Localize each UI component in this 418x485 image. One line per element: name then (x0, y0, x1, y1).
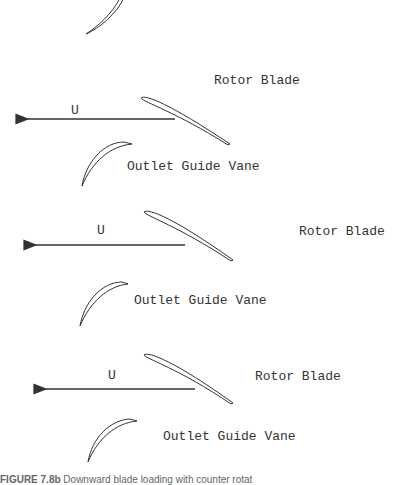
figure-number: FIGURE 7.8b (0, 474, 61, 485)
figure-caption: FIGURE 7.8b Downward blade loading with … (0, 474, 252, 485)
stage-3 (46, 354, 233, 462)
ogv-label-2: Outlet Guide Vane (134, 293, 267, 308)
rotor-blade-3 (144, 354, 233, 404)
ogv-top-partial (86, 0, 124, 34)
stage-2 (36, 211, 233, 326)
ogv-label-1: Outlet Guide Vane (127, 159, 260, 174)
velocity-label-2: U (97, 223, 105, 238)
velocity-label-1: U (71, 103, 79, 118)
ogv-label-3: Outlet Guide Vane (163, 429, 296, 444)
ogv-2 (80, 282, 128, 326)
ogv-3 (88, 419, 137, 462)
rotor-blade-label-1: Rotor Blade (214, 73, 300, 88)
rotor-blade-label-2: Rotor Blade (299, 224, 385, 239)
rotor-blade-label-3: Rotor Blade (255, 369, 341, 384)
caption-text: Downward blade loading with counter rota… (63, 474, 252, 485)
ogv-1 (82, 142, 132, 186)
velocity-label-3: U (108, 368, 116, 383)
rotor-blade-2 (144, 211, 233, 261)
rotor-blade-1 (141, 97, 230, 145)
